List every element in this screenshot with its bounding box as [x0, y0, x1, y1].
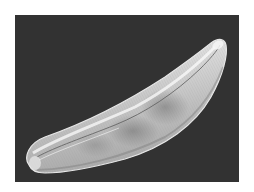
diatom-micrograph — [15, 15, 239, 182]
micrograph-frame — [15, 15, 239, 182]
left-apex — [29, 156, 41, 170]
